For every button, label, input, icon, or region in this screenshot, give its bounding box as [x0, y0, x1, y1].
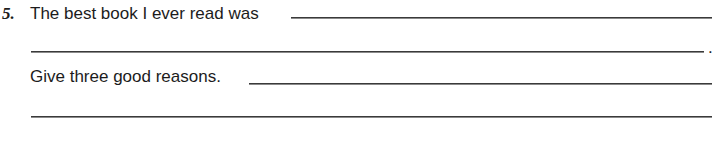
end-period: . [708, 38, 713, 58]
answer-line-book-2[interactable] [31, 51, 704, 53]
follow-up-prompt: Give three good reasons. [30, 67, 221, 87]
question-number: 5. [2, 4, 15, 24]
answer-line-reasons-2[interactable] [31, 116, 712, 118]
question-prompt: The best book I ever read was [30, 4, 259, 24]
answer-line-book-1[interactable] [291, 17, 712, 19]
answer-line-reasons-1[interactable] [249, 83, 712, 85]
